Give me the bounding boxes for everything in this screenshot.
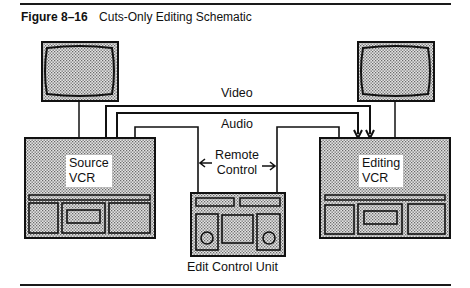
editing-vcr-label: Editing VCR: [359, 155, 403, 187]
remote-arrow-left-icon: [200, 159, 212, 167]
remote-arrow-right-icon: [262, 162, 275, 170]
edit-control-unit-label: Edit Control Unit: [187, 260, 278, 275]
source-vcr-label: Source VCR: [66, 155, 112, 187]
bottom-rule: [20, 284, 451, 286]
remote-control-label: Remote Control: [214, 148, 260, 178]
source-vcr-label-line2: VCR: [69, 171, 109, 186]
remote-label-line2: Control: [214, 163, 260, 178]
edit-control-unit: [191, 193, 285, 256]
audio-label: Audio: [221, 117, 253, 132]
editing-vcr-label-line2: VCR: [362, 171, 400, 186]
video-label: Video: [221, 86, 253, 101]
source-vcr-label-line1: Source: [69, 156, 109, 171]
source-monitor: [42, 42, 118, 101]
editing-vcr: [320, 138, 450, 238]
editing-vcr-label-line1: Editing: [362, 156, 400, 171]
remote-label-line1: Remote: [214, 148, 260, 163]
source-vcr: [25, 138, 155, 238]
editing-monitor: [358, 42, 434, 101]
schematic-diagram: [0, 0, 470, 288]
